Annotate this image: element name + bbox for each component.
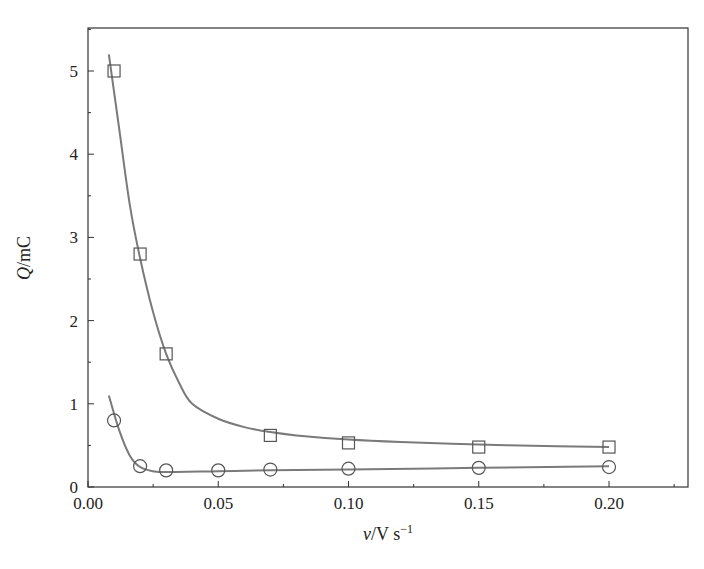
y-tick-label: 5: [70, 62, 79, 81]
y-tick-label: 3: [70, 228, 79, 247]
square-marker: [473, 441, 485, 453]
fit-curve-circles: [109, 395, 609, 472]
x-tick-label: 0.15: [464, 494, 494, 513]
chart: 0.000.050.100.150.20012345 Q/mC ν/V s−1: [0, 0, 704, 569]
plot-frame: [88, 28, 688, 487]
y-tick-label: 1: [70, 395, 79, 414]
circle-marker: [160, 464, 173, 477]
y-tick-label: 4: [70, 145, 79, 164]
data-markers: [108, 65, 616, 477]
y-tick-label: 0: [70, 478, 79, 497]
fit-curves: [109, 54, 609, 472]
x-tick-label: 0.10: [334, 494, 364, 513]
x-tick-label: 0.20: [594, 494, 624, 513]
x-tick-label: 0.05: [203, 494, 233, 513]
y-axis-label: Q/mC: [14, 236, 34, 280]
fit-curve-squares: [109, 54, 609, 447]
y-tick-label: 2: [70, 312, 79, 331]
x-axis-label: ν/V s−1: [363, 522, 413, 544]
